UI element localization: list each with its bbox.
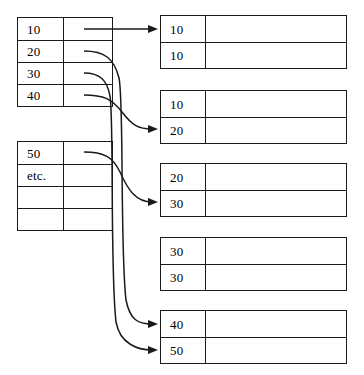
target-table-4: 30 30 (160, 237, 347, 291)
table-row[interactable]: 20 (18, 40, 112, 62)
source-key-cell: 30 (18, 63, 64, 84)
arrowhead-icon (148, 198, 158, 206)
source-key-cell: 50 (18, 142, 64, 164)
table-row[interactable]: 10 (18, 18, 112, 40)
table-row[interactable]: 20 (161, 164, 346, 190)
source-pointer-cell (64, 165, 112, 186)
source-pointer-cell (64, 142, 112, 164)
table-row[interactable]: 20 (161, 117, 346, 143)
target-value-cell (206, 191, 346, 216)
target-value-cell (206, 91, 346, 117)
table-row[interactable]: 40 (161, 311, 346, 337)
target-value-cell (206, 238, 346, 264)
arrowhead-icon (148, 25, 158, 33)
target-table-3: 20 30 (160, 163, 347, 217)
source-key-cell: 10 (18, 18, 64, 40)
table-row[interactable]: 30 (18, 62, 112, 84)
arrowhead-icon (148, 346, 158, 354)
table-row[interactable]: 10 (161, 16, 346, 42)
target-table-1: 10 10 (160, 15, 347, 69)
source-pointer-cell (64, 18, 112, 40)
target-value-cell (206, 265, 346, 290)
source-key-cell: 40 (18, 85, 64, 106)
table-row[interactable]: 40 (18, 84, 112, 106)
target-key-cell: 10 (161, 43, 206, 68)
target-value-cell (206, 311, 346, 337)
target-table-2: 10 20 (160, 90, 347, 144)
source-pointer-cell (64, 63, 112, 84)
source-pointer-cell (64, 187, 112, 208)
table-row[interactable]: 10 (161, 42, 346, 68)
source-key-cell: 20 (18, 41, 64, 62)
source-key-cell: etc. (18, 165, 64, 186)
target-key-cell: 10 (161, 16, 206, 42)
source-table-1: 10 20 30 40 (17, 17, 113, 107)
table-row[interactable]: 50 (18, 142, 112, 164)
source-pointer-cell (64, 41, 112, 62)
pointer-linkage-diagram: 10 20 30 40 50 etc. (0, 0, 364, 375)
table-row[interactable]: 30 (161, 238, 346, 264)
table-row[interactable]: 10 (161, 91, 346, 117)
table-row[interactable]: 30 (161, 264, 346, 290)
table-row[interactable] (18, 208, 112, 230)
arrowhead-icon (148, 125, 158, 133)
target-value-cell (206, 16, 346, 42)
target-value-cell (206, 164, 346, 190)
target-key-cell: 30 (161, 238, 206, 264)
table-row[interactable] (18, 186, 112, 208)
target-key-cell: 10 (161, 91, 206, 117)
target-key-cell: 20 (161, 118, 206, 143)
source-pointer-cell (64, 85, 112, 106)
source-key-cell (18, 187, 64, 208)
table-row[interactable]: etc. (18, 164, 112, 186)
source-pointer-cell (64, 209, 112, 230)
target-key-cell: 30 (161, 191, 206, 216)
arrowhead-icon (148, 320, 158, 328)
target-table-5: 40 50 (160, 310, 347, 364)
target-key-cell: 30 (161, 265, 206, 290)
table-row[interactable]: 50 (161, 337, 346, 363)
target-key-cell: 50 (161, 338, 206, 363)
target-value-cell (206, 338, 346, 363)
target-key-cell: 40 (161, 311, 206, 337)
source-key-cell (18, 209, 64, 230)
target-value-cell (206, 43, 346, 68)
table-row[interactable]: 30 (161, 190, 346, 216)
source-table-2: 50 etc. (17, 141, 113, 231)
target-key-cell: 20 (161, 164, 206, 190)
target-value-cell (206, 118, 346, 143)
